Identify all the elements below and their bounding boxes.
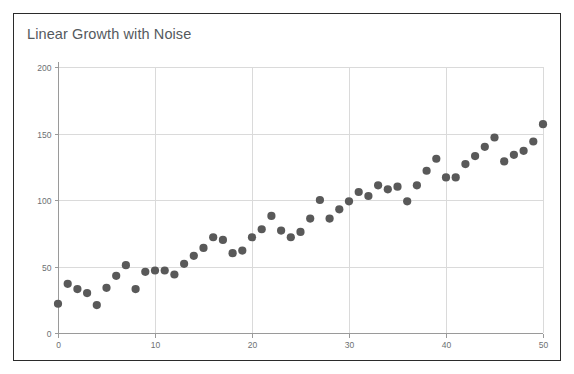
- y-tick-label: 150: [37, 130, 51, 140]
- x-tick-label: 20: [248, 340, 258, 350]
- data-point: [258, 225, 266, 233]
- data-point: [423, 167, 431, 175]
- y-axis-labels: 050100150200: [37, 63, 51, 339]
- data-point: [151, 266, 159, 274]
- data-point: [306, 215, 314, 223]
- data-point: [248, 233, 256, 241]
- data-point: [102, 284, 110, 292]
- x-axis-labels: 01020304050: [56, 340, 548, 350]
- data-point: [287, 233, 295, 241]
- chart-card: Linear Growth with Noise 050100150200 01…: [13, 13, 561, 361]
- data-point: [73, 285, 81, 293]
- tick-marks-group: [55, 68, 544, 338]
- data-points-group: [54, 120, 547, 309]
- data-point: [452, 173, 460, 181]
- data-point: [277, 226, 285, 234]
- x-tick-label: 30: [345, 340, 355, 350]
- data-point: [335, 205, 343, 213]
- data-point: [219, 236, 227, 244]
- data-point: [461, 160, 469, 168]
- y-tick-label: 200: [37, 63, 51, 73]
- data-point: [267, 212, 275, 220]
- data-point: [355, 188, 363, 196]
- data-point: [93, 301, 101, 309]
- data-point: [481, 143, 489, 151]
- data-point: [345, 197, 353, 205]
- data-point: [510, 151, 518, 159]
- data-point: [54, 300, 62, 308]
- data-point: [112, 272, 120, 280]
- y-tick-label: 100: [37, 196, 51, 206]
- data-point: [529, 137, 537, 145]
- data-point: [403, 197, 411, 205]
- data-point: [238, 246, 246, 254]
- scatter-plot: 050100150200 01020304050: [14, 14, 562, 362]
- data-point: [229, 249, 237, 257]
- y-tick-label: 50: [42, 263, 52, 273]
- data-point: [374, 181, 382, 189]
- x-tick-label: 40: [442, 340, 452, 350]
- data-point: [471, 152, 479, 160]
- data-point: [500, 157, 508, 165]
- data-point: [122, 261, 130, 269]
- data-point: [393, 183, 401, 191]
- data-point: [209, 233, 217, 241]
- y-tick-label: 0: [47, 329, 52, 339]
- x-tick-label: 0: [56, 340, 61, 350]
- data-point: [316, 196, 324, 204]
- data-point: [64, 280, 72, 288]
- data-point: [520, 147, 528, 155]
- x-tick-label: 10: [151, 340, 161, 350]
- data-point: [539, 120, 547, 128]
- data-point: [442, 173, 450, 181]
- data-point: [132, 285, 140, 293]
- data-point: [170, 270, 178, 278]
- data-point: [141, 268, 149, 276]
- data-point: [490, 133, 498, 141]
- data-point: [83, 289, 91, 297]
- data-point: [384, 185, 392, 193]
- data-point: [161, 266, 169, 274]
- data-point: [199, 244, 207, 252]
- data-point: [326, 215, 334, 223]
- data-point: [296, 228, 304, 236]
- x-tick-label: 50: [539, 340, 549, 350]
- axes-group: [59, 62, 544, 334]
- grid-group: [58, 67, 544, 333]
- data-point: [180, 260, 188, 268]
- data-point: [432, 155, 440, 163]
- data-point: [413, 181, 421, 189]
- data-point: [190, 252, 198, 260]
- data-point: [364, 192, 372, 200]
